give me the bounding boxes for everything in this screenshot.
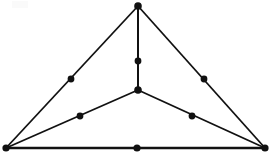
midpoint-node-apex-left [68, 76, 75, 83]
midpoint-node-center-right [189, 113, 196, 120]
midpoint-node-bottom [133, 144, 140, 151]
midpoint-node-apex-center [135, 58, 142, 65]
vertex-node-apex [134, 2, 142, 10]
vertex-node-bottom-left [2, 144, 9, 151]
vertex-node-center [134, 86, 142, 94]
triangle-graph-svg [0, 0, 272, 157]
midpoint-node-center-left [77, 113, 84, 120]
diagram-canvas [0, 0, 272, 157]
midpoint-node-apex-right [201, 76, 208, 83]
faint-speck-artifact [12, 1, 28, 8]
vertex-node-bottom-right [261, 144, 268, 151]
artifact-layer [12, 1, 28, 8]
